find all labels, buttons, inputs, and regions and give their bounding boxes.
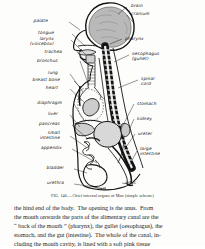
bronchus-right	[94, 87, 101, 96]
kidney-shape	[121, 123, 130, 136]
anatomy-figure: palate tongue larynx (voicebox) trachea …	[0, 0, 205, 192]
label-trachea: trachea	[34, 49, 62, 54]
label-heart: heart	[30, 85, 58, 90]
label-palate: palate	[24, 18, 48, 23]
figure-caption: FIG. 146.—Chief internal organs of Man (…	[0, 193, 205, 198]
airway-group	[77, 55, 104, 101]
label-bronchus: bronchus	[24, 58, 58, 63]
label-large-intestine: intestine	[140, 151, 160, 156]
label-brain: brain	[131, 3, 143, 8]
stomach-shape	[94, 121, 122, 147]
label-appendix: appendix	[26, 145, 62, 150]
palate-line	[78, 45, 97, 46]
label-bladder: bladder	[30, 165, 64, 170]
label-diaphragm: diaphragm	[20, 100, 62, 105]
body-text: the hind end of the body. The opening is…	[14, 204, 192, 249]
label-kidney: kidney	[137, 116, 152, 121]
label-tongue: tongue	[28, 30, 54, 35]
body-line-3: “ back of the mouth ” (pharynx), the gul…	[14, 222, 192, 231]
label-liver: liver	[32, 111, 58, 116]
spine-group	[101, 46, 143, 168]
label-intestine: intestine	[26, 135, 60, 140]
label-gullet: (gullet)	[132, 56, 149, 61]
heart-shape	[83, 99, 99, 116]
label-breast-bone: breast bone	[20, 77, 60, 82]
label-pharynx: pharynx	[125, 36, 144, 41]
label-voicebox: (voicebox)	[22, 41, 54, 46]
label-anus: anus	[125, 180, 136, 185]
body-line-5: cluding the mouth cavity, is lined with …	[14, 240, 192, 249]
label-urethra: urethra	[30, 180, 64, 185]
bronchus-left	[80, 87, 89, 97]
label-cord: cord	[141, 81, 151, 86]
label-lung: lung	[32, 70, 58, 75]
liver-shape	[75, 123, 95, 136]
label-cranium: cranium	[131, 11, 150, 16]
label-ureter: ureter	[138, 131, 152, 136]
appendix-shape	[95, 160, 100, 168]
larynx-box	[86, 55, 95, 63]
body-line-2: the mouth onwards the parts of the alime…	[14, 213, 192, 222]
label-stomach: stomach	[137, 101, 157, 106]
body-line-4: stomach, and the gut (intestine). The wh…	[14, 231, 192, 240]
anatomy-diagram-svg	[0, 0, 205, 192]
body-line-1: the hind end of the body. The opening is…	[14, 204, 192, 213]
label-pancreas: pancreas	[24, 121, 60, 126]
